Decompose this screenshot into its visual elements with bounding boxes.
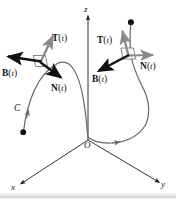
y-axis-label: y bbox=[161, 180, 165, 189]
curve-left-branch bbox=[24, 64, 58, 132]
bottom-gradient-strip bbox=[0, 192, 176, 199]
origin-label: O bbox=[84, 141, 91, 150]
curve-loop-arrowhead-seg bbox=[112, 142, 120, 143]
right-tangent-label: T(t) bbox=[97, 36, 112, 46]
figure-canvas bbox=[0, 0, 176, 199]
right-binormal-label: B(t) bbox=[92, 75, 107, 85]
right-binormal-vector-arrow bbox=[99, 55, 130, 71]
curve-left-hump bbox=[58, 62, 88, 136]
curve-start-endpoint-dot bbox=[20, 129, 26, 135]
space-curve-c bbox=[24, 24, 149, 144]
left-tangent-label: T(t) bbox=[52, 34, 67, 44]
left-binormal-label: B(t) bbox=[2, 69, 17, 79]
curve-lower-loop bbox=[88, 125, 146, 143]
y-axis bbox=[88, 140, 160, 183]
frenet-frame-figure: T(t) B(t) N(t) T(t) B(t) N(t) C O x y z bbox=[0, 0, 176, 199]
curve-end-endpoint-dot bbox=[128, 19, 134, 25]
left-normal-label: N(t) bbox=[51, 84, 67, 94]
right-normal-label: N(t) bbox=[140, 62, 156, 72]
x-axis-label: x bbox=[11, 183, 15, 192]
right-normal-vector-arrow bbox=[128, 55, 154, 56]
z-axis-label: z bbox=[84, 5, 88, 14]
curve-name-label: C bbox=[14, 104, 20, 114]
x-axis bbox=[21, 140, 89, 184]
coordinate-axes bbox=[21, 16, 160, 185]
